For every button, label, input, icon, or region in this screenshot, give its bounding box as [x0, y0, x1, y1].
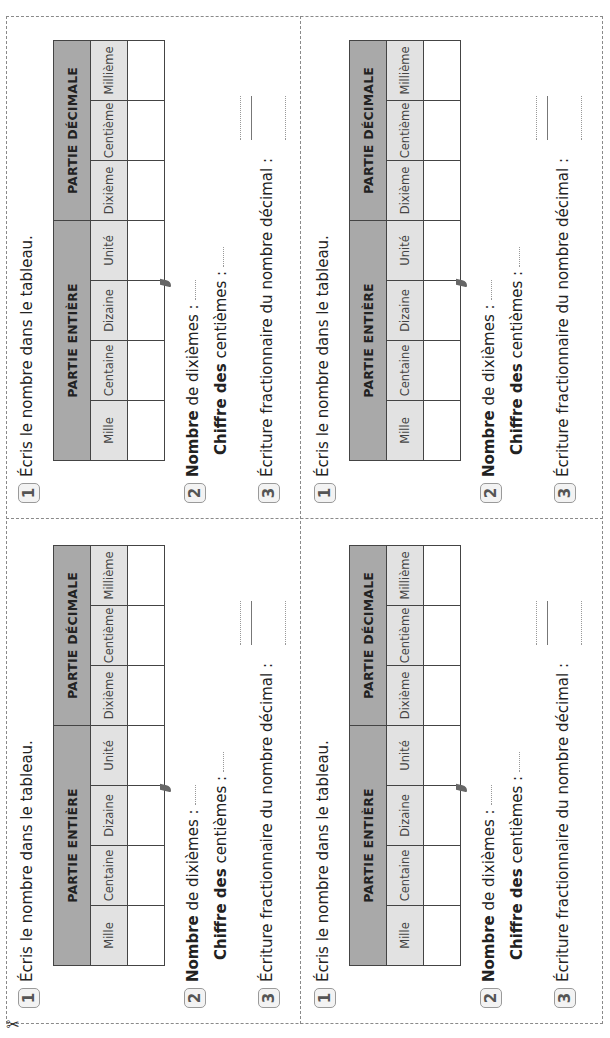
- question-3-text: Écriture fractionnaire du nombre décimal…: [554, 663, 572, 982]
- question-3-badge: 3: [554, 988, 576, 1008]
- cell-centieme[interactable]: [128, 101, 165, 161]
- column-dizaine: Dizaine: [387, 281, 424, 341]
- cell-dizaine[interactable]: [128, 786, 165, 846]
- question-2-badge: 2: [184, 483, 206, 503]
- cell-centaine[interactable]: [128, 846, 165, 906]
- answer-blank-centiemes[interactable]: [519, 247, 520, 267]
- cell-unite[interactable]: [128, 726, 165, 786]
- cell-dixieme[interactable]: [424, 161, 461, 221]
- question-2b-text: centièmes :: [212, 776, 230, 869]
- cell-centieme[interactable]: [128, 606, 165, 666]
- column-centaine: Centaine: [387, 846, 424, 906]
- column-dixieme: Dixième: [387, 161, 424, 221]
- cell-dixieme[interactable]: [128, 666, 165, 726]
- column-centieme: Centième: [387, 606, 424, 666]
- column-centieme: Centième: [91, 101, 128, 161]
- cell-dizaine[interactable]: [424, 786, 461, 846]
- cell-centaine[interactable]: [128, 341, 165, 401]
- question-2b: Chiffre des centièmes :: [212, 752, 230, 960]
- cell-centaine[interactable]: [424, 846, 461, 906]
- column-mille: Mille: [91, 401, 128, 461]
- cell-dixieme[interactable]: [424, 666, 461, 726]
- answer-blank-centiemes[interactable]: [223, 247, 224, 267]
- place-value-table: PARTIE ENTIÈRE PARTIE DÉCIMALE Mille Cen…: [53, 545, 165, 966]
- fraction-numerator-blank[interactable]: [536, 96, 537, 140]
- fraction-bar: [251, 601, 252, 645]
- fraction-answer-card-3[interactable]: [536, 599, 586, 645]
- fraction-denominator-blank[interactable]: [285, 96, 286, 140]
- column-millieme: Millième: [91, 41, 128, 101]
- column-millieme: Millième: [91, 546, 128, 606]
- column-centaine: Centaine: [91, 341, 128, 401]
- fraction-denominator-blank[interactable]: [581, 96, 582, 140]
- cell-unite[interactable]: [424, 726, 461, 786]
- cell-mille[interactable]: [128, 906, 165, 966]
- cell-unite[interactable]: [128, 221, 165, 281]
- question-3-badge: 3: [258, 483, 280, 503]
- group-header-decimal: PARTIE DÉCIMALE: [54, 546, 91, 726]
- cell-dixieme[interactable]: [128, 161, 165, 221]
- cell-millieme[interactable]: [424, 41, 461, 101]
- question-2a-text: de dixièmes :: [480, 809, 498, 915]
- answer-blank-dixiemes[interactable]: [491, 785, 492, 805]
- fraction-numerator-blank[interactable]: [536, 601, 537, 645]
- group-header-integer: PARTIE ENTIÈRE: [350, 221, 387, 461]
- column-centaine: Centaine: [91, 846, 128, 906]
- fraction-answer-card-1[interactable]: [240, 599, 290, 645]
- answer-blank-dixiemes[interactable]: [491, 280, 492, 300]
- column-millieme: Millième: [387, 41, 424, 101]
- fraction-denominator-blank[interactable]: [581, 601, 582, 645]
- question-3-badge: 3: [554, 483, 576, 503]
- question-1-badge: 1: [18, 483, 40, 503]
- column-dixieme: Dixième: [387, 666, 424, 726]
- cell-mille[interactable]: [424, 401, 461, 461]
- question-3-badge: 3: [258, 988, 280, 1008]
- question-3-text: Écriture fractionnaire du nombre décimal…: [554, 158, 572, 477]
- question-2b-text: centièmes :: [508, 776, 526, 869]
- answer-blank-centiemes[interactable]: [223, 752, 224, 772]
- question-2a: Nombre de dixièmes :: [480, 280, 498, 477]
- cell-dizaine[interactable]: [128, 281, 165, 341]
- column-unite: Unité: [387, 221, 424, 281]
- question-1-text: Écris le nombre dans le tableau.: [18, 740, 36, 982]
- answer-blank-dixiemes[interactable]: [195, 280, 196, 300]
- question-2b-text: centièmes :: [508, 271, 526, 364]
- column-centieme: Centième: [91, 606, 128, 666]
- cell-centaine[interactable]: [424, 341, 461, 401]
- column-unite: Unité: [387, 726, 424, 786]
- answer-blank-dixiemes[interactable]: [195, 785, 196, 805]
- fraction-answer-card-4[interactable]: [536, 94, 586, 140]
- cell-dizaine[interactable]: [424, 281, 461, 341]
- cell-centieme[interactable]: [424, 101, 461, 161]
- cell-centieme[interactable]: [424, 606, 461, 666]
- cell-unite[interactable]: [424, 221, 461, 281]
- exercise-card-3: 1 Écris le nombre dans le tableau. PARTI…: [304, 518, 594, 1018]
- place-value-table: PARTIE ENTIÈRE PARTIE DÉCIMALE Mille Cen…: [53, 40, 165, 461]
- column-mille: Mille: [387, 906, 424, 966]
- group-header-integer: PARTIE ENTIÈRE: [54, 221, 91, 461]
- cell-mille[interactable]: [128, 401, 165, 461]
- fraction-denominator-blank[interactable]: [285, 601, 286, 645]
- question-2-badge: 2: [480, 483, 502, 503]
- question-1-badge: 1: [314, 483, 336, 503]
- cell-millieme[interactable]: [128, 546, 165, 606]
- question-2a: Nombre de dixièmes :: [480, 785, 498, 982]
- cell-mille[interactable]: [424, 906, 461, 966]
- cell-millieme[interactable]: [424, 546, 461, 606]
- column-mille: Mille: [387, 401, 424, 461]
- cell-millieme[interactable]: [128, 41, 165, 101]
- fraction-bar: [547, 601, 548, 645]
- column-centaine: Centaine: [387, 341, 424, 401]
- question-2b-bold: Chiffre des: [508, 363, 526, 455]
- group-header-decimal: PARTIE DÉCIMALE: [54, 41, 91, 221]
- question-2b-text: centièmes :: [212, 271, 230, 364]
- fraction-numerator-blank[interactable]: [240, 96, 241, 140]
- column-unite: Unité: [91, 726, 128, 786]
- column-dizaine: Dizaine: [91, 786, 128, 846]
- answer-blank-centiemes[interactable]: [519, 752, 520, 772]
- question-2b: Chiffre des centièmes :: [508, 752, 526, 960]
- fraction-answer-card-2[interactable]: [240, 94, 290, 140]
- fraction-numerator-blank[interactable]: [240, 601, 241, 645]
- group-header-decimal: PARTIE DÉCIMALE: [350, 41, 387, 221]
- question-3-text: Écriture fractionnaire du nombre décimal…: [258, 663, 276, 982]
